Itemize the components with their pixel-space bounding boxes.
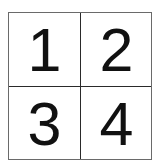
grid-cell-4[interactable]: 4 bbox=[81, 87, 152, 160]
grid-cell-2[interactable]: 2 bbox=[81, 13, 152, 86]
cell-label: 1 bbox=[28, 20, 62, 81]
grid-cell-3[interactable]: 3 bbox=[9, 87, 80, 160]
cell-label: 4 bbox=[100, 94, 134, 155]
cell-label: 2 bbox=[100, 20, 134, 81]
number-grid: 1 2 3 4 bbox=[8, 12, 152, 160]
grid-cell-1[interactable]: 1 bbox=[9, 13, 80, 86]
cell-label: 3 bbox=[28, 94, 62, 155]
